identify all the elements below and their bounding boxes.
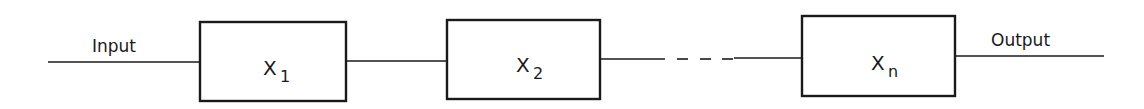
input-label: Input <box>92 36 136 56</box>
block-x1-subscript: 1 <box>280 67 290 86</box>
block-x1-symbol: X <box>263 56 277 80</box>
block-xn-symbol: X <box>871 51 885 75</box>
output-label: Output <box>991 30 1050 50</box>
block-xn-subscript: n <box>888 62 898 81</box>
block-x2-symbol: X <box>516 53 530 77</box>
block-x2-subscript: 2 <box>533 64 543 83</box>
block-diagram: Input Output X 1 X 2 X n <box>0 0 1144 109</box>
